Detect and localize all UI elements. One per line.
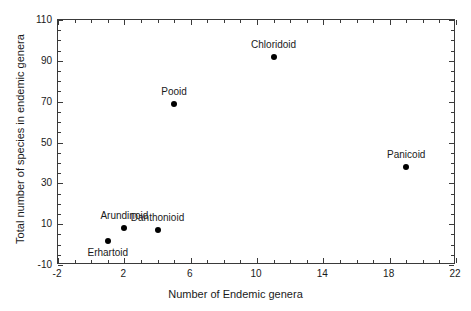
x-tick-top-major — [456, 20, 457, 25]
y-tick-minor — [58, 255, 61, 256]
data-point-label-erhartoid: Erhartoid — [87, 247, 128, 258]
x-tick-top-minor — [174, 20, 175, 23]
y-tick-minor — [58, 40, 61, 41]
y-tick-minor — [58, 153, 61, 154]
x-tick-top-minor — [240, 20, 241, 23]
x-tick-top-minor — [91, 20, 92, 23]
x-tick-top-minor — [108, 20, 109, 23]
x-tick-top-minor — [439, 20, 440, 23]
x-tick-minor — [174, 260, 175, 263]
y-tick-right-minor — [451, 163, 454, 164]
x-tick-top-minor — [75, 20, 76, 23]
y-tick-right-minor — [451, 40, 454, 41]
data-point-pooid[interactable] — [171, 101, 177, 107]
y-tick-right-major — [449, 61, 454, 62]
x-tick-label: 10 — [250, 268, 261, 279]
data-point-label-panicoid: Panicoid — [387, 149, 425, 160]
data-point-erhartoid[interactable] — [105, 238, 111, 244]
x-tick-minor — [340, 260, 341, 263]
y-tick-minor — [58, 214, 61, 215]
y-tick-minor — [58, 194, 61, 195]
x-tick-top-major — [58, 20, 59, 25]
y-tick-minor — [58, 173, 61, 174]
y-tick-right-minor — [451, 234, 454, 235]
y-tick-right-minor — [451, 122, 454, 123]
x-tick-major — [58, 258, 59, 263]
y-tick-right-minor — [451, 214, 454, 215]
x-tick-major — [124, 258, 125, 263]
x-tick-label: 2 — [121, 268, 127, 279]
x-tick-top-minor — [290, 20, 291, 23]
x-tick-top-minor — [307, 20, 308, 23]
x-tick-major — [323, 258, 324, 263]
y-tick-right-minor — [451, 91, 454, 92]
y-tick-minor — [58, 245, 61, 246]
y-tick-major — [58, 61, 63, 62]
y-tick-right-minor — [451, 255, 454, 256]
y-tick-right-minor — [451, 173, 454, 174]
x-tick-top-minor — [373, 20, 374, 23]
x-tick-minor — [75, 260, 76, 263]
y-tick-right-minor — [451, 132, 454, 133]
x-tick-minor — [240, 260, 241, 263]
x-tick-top-minor — [207, 20, 208, 23]
y-tick-label: 90 — [41, 54, 52, 65]
x-tick-minor — [158, 260, 159, 263]
y-tick-right-minor — [451, 30, 454, 31]
x-tick-label: 22 — [449, 268, 460, 279]
plot-area: ErhartoidArundinoidDanthonioidPooidChlor… — [57, 19, 455, 264]
x-tick-top-minor — [224, 20, 225, 23]
y-tick-label: 10 — [41, 218, 52, 229]
y-tick-major — [58, 224, 63, 225]
x-tick-top-major — [191, 20, 192, 25]
data-point-arundinoid[interactable] — [121, 225, 127, 231]
y-axis-tick-labels: -101030507090110 — [0, 19, 52, 264]
x-tick-minor — [290, 260, 291, 263]
x-tick-major — [191, 258, 192, 263]
x-tick-top-minor — [141, 20, 142, 23]
y-tick-major — [58, 183, 63, 184]
data-point-chloridoid[interactable] — [271, 54, 277, 60]
data-point-label-chloridoid: Chloridoid — [251, 39, 296, 50]
x-tick-minor — [439, 260, 440, 263]
x-tick-minor — [224, 260, 225, 263]
x-axis-title: Number of Endemic genera — [0, 288, 471, 300]
x-tick-minor — [357, 260, 358, 263]
y-tick-minor — [58, 163, 61, 164]
y-tick-minor — [58, 51, 61, 52]
data-point-label-pooid: Pooid — [161, 86, 187, 97]
y-tick-minor — [58, 81, 61, 82]
data-point-danthonioid[interactable] — [155, 227, 161, 233]
x-tick-minor — [91, 260, 92, 263]
y-tick-major — [58, 265, 63, 266]
x-tick-minor — [108, 260, 109, 263]
data-point-label-danthonioid: Danthonioid — [131, 212, 184, 223]
scatter-plot-figure: ErhartoidArundinoidDanthonioidPooidChlor… — [0, 0, 471, 311]
y-tick-right-major — [449, 143, 454, 144]
y-tick-minor — [58, 132, 61, 133]
y-tick-right-minor — [451, 51, 454, 52]
y-tick-right-major — [449, 102, 454, 103]
x-tick-major — [257, 258, 258, 263]
y-tick-minor — [58, 112, 61, 113]
x-tick-minor — [207, 260, 208, 263]
x-tick-top-minor — [158, 20, 159, 23]
y-tick-label: 50 — [41, 136, 52, 147]
x-tick-top-major — [390, 20, 391, 25]
data-point-panicoid[interactable] — [403, 164, 409, 170]
y-tick-minor — [58, 204, 61, 205]
x-tick-major — [390, 258, 391, 263]
x-tick-minor — [373, 260, 374, 263]
y-tick-minor — [58, 234, 61, 235]
y-tick-label: 70 — [41, 95, 52, 106]
x-tick-label: 14 — [317, 268, 328, 279]
y-tick-minor — [58, 71, 61, 72]
y-tick-minor — [58, 91, 61, 92]
y-tick-right-major — [449, 224, 454, 225]
x-axis-tick-labels: -22610141822 — [57, 268, 455, 284]
y-tick-right-minor — [451, 112, 454, 113]
x-tick-label: -2 — [53, 268, 62, 279]
y-tick-right-minor — [451, 71, 454, 72]
x-tick-top-major — [124, 20, 125, 25]
y-tick-right-minor — [451, 194, 454, 195]
